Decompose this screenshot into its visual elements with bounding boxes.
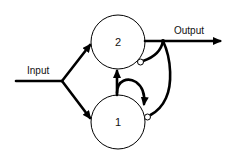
input-label: Input [27,65,49,76]
node-1-label: 1 [115,116,121,128]
inhibitory-terminal-node-2 [138,59,144,65]
inhibitory-feedback-to-node-1 [151,41,171,115]
node-1: 1 [91,95,145,149]
input-to-node-1-arrow [62,81,90,118]
output-pathway [145,39,220,43]
inhibitory-feedback-to-node-2 [143,41,163,61]
node-2-label: 2 [115,36,121,48]
node-2: 2 [91,15,145,69]
inhibitory-terminal-node-1 [145,114,151,120]
input-to-node-2-arrow [62,45,90,81]
output-label: Output [174,25,204,36]
neural-circuit-diagram: Input 2 1 Output [0,0,233,156]
input-pathway [16,45,90,118]
